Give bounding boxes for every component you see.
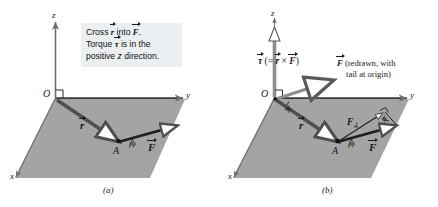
annotation-line-2: tail at origin)	[337, 69, 433, 80]
point-a-label: A	[113, 146, 119, 156]
origin-label: O	[43, 89, 50, 99]
f-symbol: F	[369, 141, 376, 153]
r-symbol: r	[299, 119, 303, 131]
angle-phi-far-label: ϕ	[382, 114, 387, 123]
r-symbol: r	[80, 119, 84, 131]
f-vector-label: F	[148, 142, 155, 153]
y-axis-label: y	[410, 91, 414, 100]
z-axis-label: z	[52, 11, 56, 20]
callout-line-2: Torque τ is in the	[86, 38, 178, 50]
callout-r-symbol: r	[111, 27, 114, 37]
r-vector-label: r	[299, 120, 303, 131]
right-angle-marker-origin	[56, 90, 64, 98]
panel-b: z y x O A τ (= r × F) F (redrawn, with t…	[219, 0, 438, 207]
annotation-line-1: F (redrawn, with	[337, 58, 433, 69]
physics-figure-torque: z y x O A r F ϕ Cross r into F. Torque τ…	[0, 0, 438, 207]
origin-label: O	[261, 89, 268, 99]
z-axis-label: z	[271, 9, 275, 18]
panel-a-caption: (a)	[103, 186, 114, 195]
xy-plane	[15, 99, 185, 178]
y-axis-label: y	[186, 91, 190, 100]
callout-box: Cross r into F. Torque τ is in the posit…	[81, 23, 182, 67]
x-axis-label: x	[10, 172, 14, 181]
f-symbol: F	[148, 141, 155, 153]
panel-a: z y x O A r F ϕ Cross r into F. Torque τ…	[0, 0, 219, 207]
callout-tau-symbol: τ	[115, 39, 119, 49]
tau-r-symbol: r	[276, 56, 280, 66]
point-a-marker	[335, 139, 340, 144]
xy-plane	[233, 99, 409, 178]
f-redrawn-annotation: F (redrawn, with tail at origin)	[337, 58, 433, 80]
panel-b-graphics	[219, 0, 438, 207]
tau-f-symbol: F	[289, 56, 295, 66]
angle-phi-origin-label: ϕ	[286, 104, 291, 113]
f-perp-label: F⊥	[347, 118, 359, 128]
f-vector-label: F	[369, 142, 376, 153]
r-vector-label: r	[80, 120, 84, 131]
angle-phi-label: ϕ	[131, 139, 136, 148]
point-a-marker	[116, 139, 120, 143]
callout-f-symbol: F	[133, 27, 139, 37]
tau-expression-label: τ (= r × F)	[258, 56, 299, 66]
f-redrawn-vector	[276, 81, 331, 99]
x-axis-label: x	[228, 172, 232, 181]
cross-product-operator: ×	[279, 56, 289, 66]
panel-b-caption: (b)	[322, 186, 333, 195]
origin-marker	[273, 97, 277, 101]
angle-phi-a-label: ϕ	[350, 139, 355, 148]
tau-arrowhead	[269, 27, 280, 41]
callout-line-1: Cross r into F.	[86, 26, 178, 38]
callout-line-3: positive z direction.	[86, 50, 178, 62]
annotation-f-symbol: F	[337, 58, 343, 68]
point-a-label: A	[332, 146, 338, 156]
f-perp-subscript: ⊥	[353, 121, 359, 128]
tau-symbol: τ	[258, 56, 262, 66]
